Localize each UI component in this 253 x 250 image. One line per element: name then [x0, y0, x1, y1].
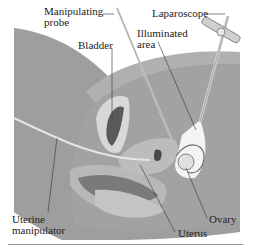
label-illuminated-area: Illuminated area — [137, 28, 188, 50]
bottom-divider — [8, 244, 243, 245]
label-manipulating-probe: Manipulating probe — [44, 6, 103, 28]
ovary — [178, 154, 194, 170]
laparoscope-hub — [217, 28, 225, 36]
label-uterus: Uterus — [178, 228, 207, 239]
label-laparoscope: Laparoscope — [152, 8, 208, 19]
label-manipulating-probe-line2: probe — [44, 17, 103, 28]
label-bladder: Bladder — [78, 40, 113, 51]
label-illuminated-line2: area — [137, 39, 188, 50]
label-ovary: Ovary — [209, 214, 237, 225]
label-uterine-line2: manipulator — [12, 225, 65, 236]
label-uterine-manipulator: Uterine manipulator — [12, 214, 65, 236]
